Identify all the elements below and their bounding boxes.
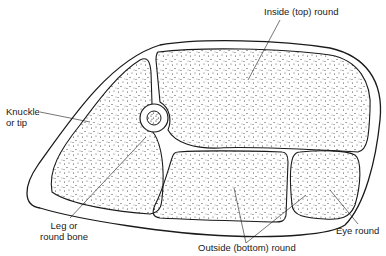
label-knuckle: Knuckle or tip — [6, 106, 40, 128]
round-bone-marrow — [147, 111, 161, 125]
label-outside-round: Outside (bottom) round — [198, 242, 296, 253]
label-round-bone-line2: round bone — [40, 231, 88, 242]
label-knuckle-line1: Knuckle — [6, 106, 40, 117]
label-knuckle-line2: or tip — [6, 117, 40, 128]
eye-round-region — [291, 151, 360, 219]
label-round-bone-line1: Leg or — [40, 220, 88, 231]
outside-round-region — [153, 151, 288, 222]
label-inside-round: Inside (top) round — [264, 6, 338, 17]
inside-round-region — [156, 49, 370, 152]
label-round-bone: Leg or round bone — [40, 220, 88, 242]
label-eye-round: Eye round — [336, 225, 379, 236]
beef-round-cross-section-diagram — [0, 0, 386, 256]
